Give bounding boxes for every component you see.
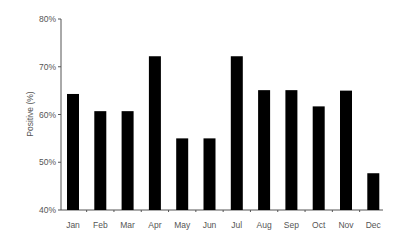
x-tick-label: Dec [366,220,382,230]
bar-aug [258,90,270,210]
bar-jul [231,56,243,210]
x-tick-label: Feb [93,220,108,230]
y-tick-label: 80% [39,14,56,24]
bar-jun [204,138,216,210]
x-tick-label: Nov [338,220,354,230]
y-axis-title: Positive (%) [25,91,35,137]
bar-oct [313,106,325,210]
x-tick-label: Sep [284,220,299,230]
x-tick-label: Apr [148,220,161,230]
bar-may [176,138,188,210]
x-tick-label: Jul [231,220,242,230]
bar-nov [340,91,352,210]
y-tick-label: 40% [39,205,56,215]
y-tick-label: 70% [39,62,56,72]
x-tick-label: Aug [257,220,272,230]
bar-mar [122,111,134,210]
bar-jan [67,94,79,210]
y-tick-label: 60% [39,110,56,120]
bar-chart: 40%50%60%70%80% JanFebMarAprMayJunJulAug… [0,0,400,248]
x-tick-label: May [174,220,191,230]
y-axis: 40%50%60%70%80% [39,14,61,215]
y-tick-label: 50% [39,157,56,167]
bar-dec [367,173,379,210]
x-tick-label: Jun [203,220,217,230]
x-axis: JanFebMarAprMayJunJulAugSepOctNovDec [61,210,383,230]
bar-feb [94,111,106,210]
x-tick-label: Mar [120,220,135,230]
x-tick-label: Oct [312,220,326,230]
bar-apr [149,56,161,210]
x-tick-label: Jan [66,220,80,230]
bar-sep [285,90,297,210]
bars [67,56,379,210]
